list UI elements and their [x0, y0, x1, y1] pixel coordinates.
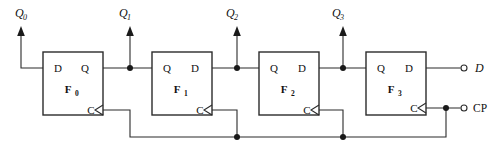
arrow-q3-icon [339, 26, 347, 36]
junction-dot-q3 [340, 65, 346, 71]
terminal-label-d: D [474, 61, 484, 75]
pin-label-f3-clock: C [410, 102, 417, 114]
pin-label-f0-right: Q [81, 62, 89, 74]
flipflop-f2-name: F [281, 83, 288, 95]
pin-label-f3-left: Q [377, 62, 385, 74]
wire-clk-f2 [319, 110, 343, 137]
junction-dot-clk-bus-1 [234, 134, 240, 140]
pin-label-f2-right: D [298, 62, 306, 74]
pin-label-f1-right: D [191, 62, 199, 74]
flipflop-f3-name: F [388, 83, 395, 95]
flipflop-f1-name: F [174, 83, 181, 95]
flipflop-f1-subscript: 1 [184, 89, 188, 98]
arrow-q2-icon [233, 26, 241, 36]
pin-label-f1-clock: C [196, 104, 203, 116]
terminal-pin-cp [461, 105, 467, 111]
pin-label-f1-left: Q [163, 62, 171, 74]
junction-dot-clk-cp [443, 105, 449, 111]
pin-label-f2-clock: C [303, 104, 310, 116]
flipflop-f3-subscript: 3 [398, 89, 402, 98]
pin-label-f3-right: D [405, 62, 413, 74]
output-subscript-q1: 1 [127, 13, 131, 22]
terminal-label-cp: CP [473, 102, 487, 114]
flipflop-f2-subscript: 2 [291, 89, 295, 98]
arrow-q0-icon [17, 26, 25, 36]
pin-label-f2-left: Q [270, 62, 278, 74]
output-subscript-q3: 3 [339, 13, 344, 22]
wire-clk-f1 [212, 110, 237, 137]
output-subscript-q2: 2 [234, 13, 238, 22]
junction-dot-q1 [127, 65, 133, 71]
pin-label-f0-left: D [54, 62, 62, 74]
terminal-pin-d [461, 65, 467, 71]
flipflop-f0-subscript: 0 [75, 89, 79, 98]
arrow-q1-icon [126, 26, 134, 36]
circuit-canvas: D Q C F 0 Q D C F 1 Q D C F 2 Q D C F 3 … [0, 0, 493, 153]
output-subscript-q0: 0 [23, 13, 27, 22]
junction-dot-clk-bus-2 [340, 134, 346, 140]
pin-label-f0-clock: C [87, 104, 94, 116]
flipflop-f0-name: F [65, 83, 72, 95]
junction-dot-q2 [234, 65, 240, 71]
logic-circuit-diagram: D Q C F 0 Q D C F 1 Q D C F 2 Q D C F 3 … [0, 0, 493, 153]
